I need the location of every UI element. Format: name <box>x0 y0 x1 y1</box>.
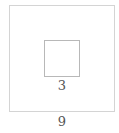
outer-square-side-label: 9 <box>52 115 72 128</box>
inner-square <box>44 40 80 77</box>
inner-square-side-label: 3 <box>52 79 72 92</box>
